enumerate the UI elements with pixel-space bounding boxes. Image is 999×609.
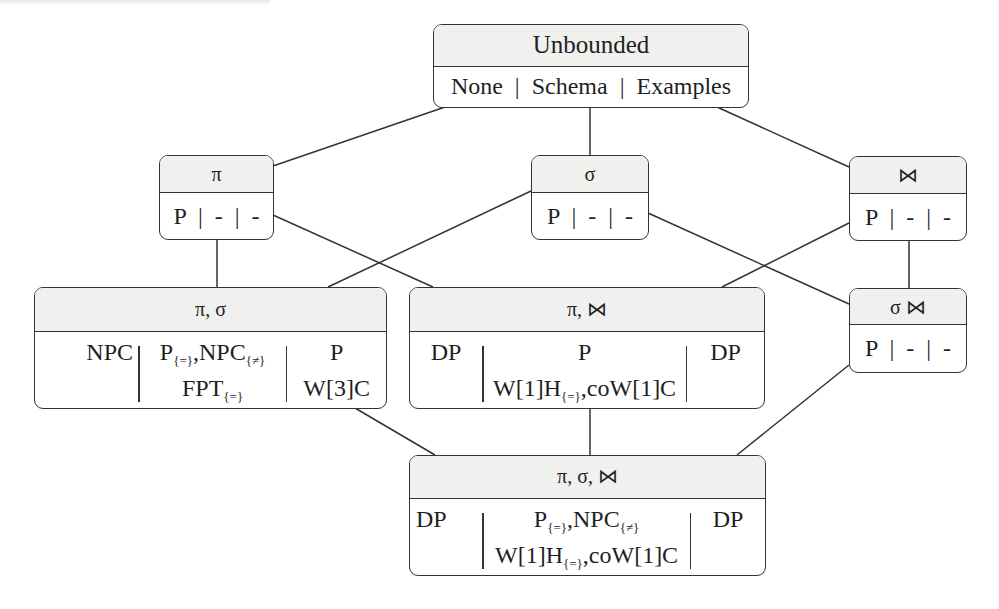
cell-schema: P{=},NPC{≠} FPT{=}: [140, 338, 286, 402]
edge-unbounded-pi: [273, 107, 445, 166]
node-sigma: σ P | - | -: [531, 155, 649, 240]
pipe-separator: |: [926, 325, 931, 371]
pipe-separator: |: [571, 193, 576, 239]
cell-schema: Schema: [532, 73, 608, 99]
node-pi: π P | - | -: [159, 155, 274, 240]
pipe-separator: |: [926, 194, 931, 240]
cell-none: NPC: [86, 339, 133, 365]
node-title: π: [211, 156, 221, 192]
cell-schema-none: P: [173, 203, 185, 229]
cell-schema: P{=},NPC{≠} W[1]H{=},coW[1]C: [484, 505, 690, 569]
cell-examples: P W[3]C: [287, 338, 386, 402]
cell-examples: -: [625, 203, 633, 229]
cell-none: P: [865, 204, 877, 230]
cell-examples: -: [943, 335, 951, 361]
pipe-separator: |: [515, 67, 520, 105]
cell-schema: -: [215, 203, 223, 229]
edge-pi-pijoin: [273, 215, 433, 287]
cell-schema: -: [588, 203, 596, 229]
node-pi-join: π, ⋈ DP P W[1]H{=},coW[1]C DP: [409, 287, 765, 409]
cell-schema: -: [906, 204, 914, 230]
cell-none: P: [865, 335, 877, 361]
node-title: π, ⋈: [567, 288, 607, 330]
cell-examples: Examples: [636, 73, 731, 99]
cell-examples: -: [252, 203, 260, 229]
node-sigma-join: σ ⋈ P | - | -: [849, 288, 967, 373]
edge-unbounded-join: [717, 107, 849, 167]
node-title: σ: [585, 156, 596, 192]
cell-none: DP: [431, 339, 462, 365]
cell-examples: DP: [713, 506, 744, 532]
node-title: Unbounded: [533, 25, 650, 65]
pipe-separator: |: [620, 67, 625, 105]
cell-schema: P W[1]H{=},coW[1]C: [484, 338, 686, 402]
cell-examples: DP: [710, 339, 741, 365]
node-title: σ ⋈: [890, 289, 926, 325]
cell-none: None: [451, 73, 503, 99]
cell-schema: -: [906, 335, 914, 361]
pipe-separator: |: [889, 194, 894, 240]
node-title: π, σ, ⋈: [557, 456, 618, 497]
edge-sigma-pisigma: [328, 191, 531, 287]
pipe-separator: |: [608, 193, 613, 239]
node-unbounded: Unbounded None | Schema | Examples: [433, 24, 749, 108]
cell-none: DP: [416, 506, 447, 532]
edge-pisigma-all: [355, 408, 435, 455]
pipe-separator: |: [235, 193, 240, 239]
node-pi-sigma: π, σ NPC P{=},NPC{≠} FPT{=} P W[3]C: [34, 287, 387, 409]
node-join: ⋈ P | - | -: [849, 156, 967, 241]
pipe-separator: |: [889, 325, 894, 371]
pipe-separator: |: [198, 193, 203, 239]
node-title: ⋈: [898, 157, 918, 193]
node-pi-sigma-join: π, σ, ⋈ DP P{=},NPC{≠} W[1]H{=},coW[1]C …: [409, 455, 766, 576]
node-title: π, σ: [195, 288, 226, 330]
cell-examples: -: [943, 204, 951, 230]
cell-none: P: [547, 203, 559, 229]
